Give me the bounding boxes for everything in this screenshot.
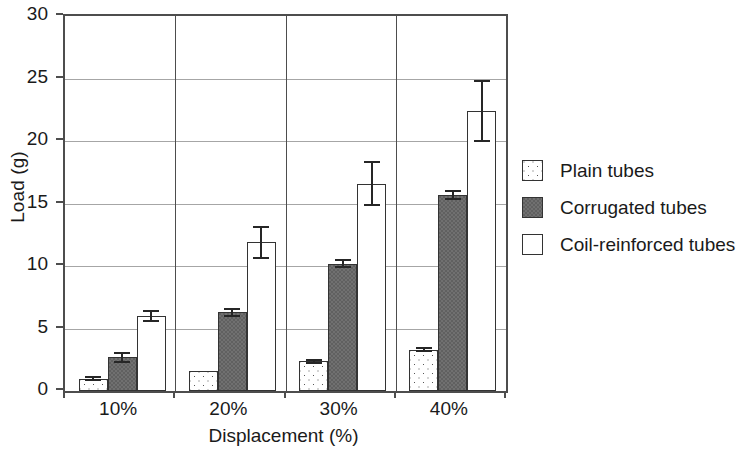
y-tick-label: 0 [4, 379, 48, 398]
error-bar-cap-top [364, 161, 380, 163]
bar-plain [299, 361, 328, 391]
bar-coil [247, 242, 276, 391]
error-bar-cap-bottom [253, 257, 269, 259]
bar-chart-figure: Load (g) 051015202530 10%20%30%40% Displ… [0, 0, 756, 454]
x-tick-label: 20% [173, 398, 283, 420]
error-bar-cap-bottom [445, 198, 461, 200]
x-tick-mark [394, 391, 396, 398]
y-tick-label: 15 [4, 192, 48, 211]
bar-coil [137, 316, 166, 391]
legend-label: Corrugated tubes [560, 197, 707, 219]
error-bar-cap-top [114, 352, 130, 354]
bar-corrugated [438, 195, 467, 391]
legend-item: Corrugated tubes [522, 189, 735, 226]
error-bar-stem [481, 80, 483, 143]
error-bar-cap-top [416, 347, 432, 349]
error-bar-cap-top [445, 190, 461, 192]
x-tick-mark [63, 391, 65, 398]
x-tick-mark [504, 391, 506, 398]
error-bar-cap-bottom [306, 362, 322, 364]
legend-label: Coil-reinforced tubes [560, 234, 735, 256]
error-bar-cap-bottom [364, 204, 380, 206]
x-tick-label: 30% [284, 398, 394, 420]
error-bar-cap-bottom [416, 350, 432, 352]
legend-swatch-plain [522, 160, 543, 181]
x-axis-label: Displacement (%) [63, 425, 504, 447]
legend-swatch-corrugated [522, 197, 543, 218]
error-bar-cap-bottom [474, 140, 490, 142]
error-bar-stem [371, 161, 373, 206]
y-tick-label: 25 [4, 67, 48, 86]
error-bar-cap-top [253, 226, 269, 228]
error-bar-cap-top [335, 259, 351, 261]
legend: Plain tubesCorrugated tubesCoil-reinforc… [522, 152, 735, 263]
bar-group [65, 16, 176, 391]
error-bar-cap-top [85, 376, 101, 378]
x-tick-label: 10% [63, 398, 173, 420]
bar-plain [189, 371, 218, 391]
bar-group [175, 16, 286, 391]
bar-corrugated [328, 264, 357, 392]
y-tick-mark [56, 263, 63, 265]
bar-group [396, 16, 506, 391]
y-tick-mark [56, 388, 63, 390]
error-bar-cap-top [306, 359, 322, 361]
bar-coil [357, 184, 386, 392]
error-bar-cap-bottom [335, 266, 351, 268]
error-bar-cap-bottom [224, 315, 240, 317]
plot-area [63, 14, 508, 393]
error-bar-cap-top [474, 80, 490, 82]
x-tick-mark [284, 391, 286, 398]
bar-plain [409, 350, 438, 391]
y-tick-mark [56, 326, 63, 328]
y-tick-mark [56, 201, 63, 203]
y-tick-mark [56, 76, 63, 78]
y-tick-mark [56, 13, 63, 15]
error-bar-cap-bottom [85, 379, 101, 381]
error-bar-cap-bottom [114, 361, 130, 363]
legend-item: Plain tubes [522, 152, 735, 189]
y-tick-label: 5 [4, 317, 48, 336]
bar-corrugated [218, 312, 247, 391]
error-bar-cap-top [224, 308, 240, 310]
y-tick-label: 20 [4, 129, 48, 148]
bar-coil [467, 111, 496, 391]
x-tick-label: 40% [394, 398, 504, 420]
y-tick-mark [56, 138, 63, 140]
y-tick-label: 10 [4, 254, 48, 273]
error-bar-cap-bottom [143, 320, 159, 322]
legend-swatch-coil [522, 234, 543, 255]
error-bar-stem [260, 226, 262, 259]
bar-group [286, 16, 397, 391]
x-tick-mark [173, 391, 175, 398]
legend-label: Plain tubes [560, 160, 654, 182]
y-tick-label: 30 [4, 4, 48, 23]
legend-item: Coil-reinforced tubes [522, 226, 735, 263]
error-bar-cap-top [143, 310, 159, 312]
